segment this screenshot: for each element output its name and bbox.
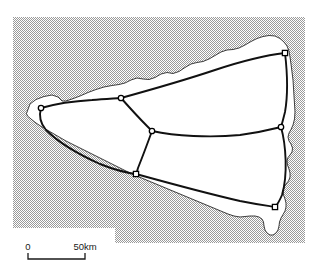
scale-bar: 0 50km xyxy=(25,241,96,259)
scale-start-label: 0 xyxy=(25,241,30,252)
node-west xyxy=(38,105,43,110)
node-north-east xyxy=(282,50,287,55)
node-north-west xyxy=(118,95,123,100)
scale-bar-line xyxy=(28,253,85,259)
map-figure: 0 50km xyxy=(0,0,319,278)
node-east xyxy=(278,124,283,129)
node-centre xyxy=(149,128,154,133)
scale-end-label: 50km xyxy=(73,241,96,252)
node-south-east xyxy=(272,204,277,209)
map-canvas: 0 50km xyxy=(0,0,319,278)
node-south-centre xyxy=(133,171,138,176)
